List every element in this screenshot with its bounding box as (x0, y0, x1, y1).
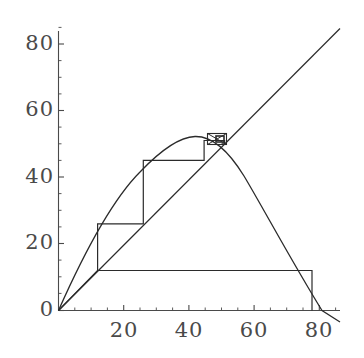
x-tick-label-20: 20 (98, 318, 150, 342)
x-tick-label-60: 60 (228, 318, 280, 342)
y-tick-label-40: 40 (10, 164, 54, 188)
y-major-ticks (59, 44, 65, 311)
y-tick-label-0: 0 (10, 297, 54, 321)
x-tick-label-80: 80 (293, 318, 345, 342)
cobweb-lower-branch (98, 271, 312, 311)
cobweb-path (59, 141, 225, 311)
plot-canvas (0, 0, 364, 358)
identity-line (59, 29, 341, 311)
parabola-curve (59, 136, 341, 322)
x-tick-label-40: 40 (163, 318, 215, 342)
y-tick-label-80: 80 (10, 31, 54, 55)
fixed-point-box (208, 134, 227, 145)
cobweb-plot-figure: 80 60 40 20 0 20 40 60 80 (0, 0, 364, 358)
y-tick-label-60: 60 (10, 97, 54, 121)
y-tick-label-20: 20 (10, 230, 54, 254)
